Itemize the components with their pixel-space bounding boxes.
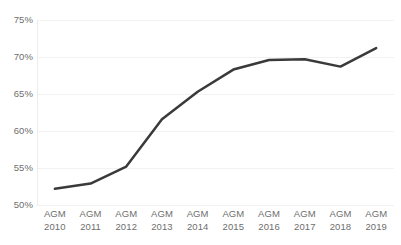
x-tick-label-line1: AGM: [251, 207, 287, 220]
x-tick-label-line1: AGM: [180, 207, 216, 220]
x-tick-label-line1: AGM: [108, 207, 144, 220]
x-tick-label-agm-2010: AGM 2010: [37, 207, 73, 241]
x-tick-label-agm-2016: AGM 2016: [251, 207, 287, 241]
x-tick-label-agm-2017: AGM 2017: [287, 207, 323, 241]
series-line: [55, 48, 376, 189]
x-tick-label-line1: AGM: [287, 207, 323, 220]
x-tick-label-line2: 2018: [323, 220, 359, 233]
x-tick-label-agm-2015: AGM 2015: [216, 207, 252, 241]
x-tick-label-agm-2012: AGM 2012: [108, 207, 144, 241]
x-tick-label-agm-2013: AGM 2013: [144, 207, 180, 241]
x-tick-label-agm-2019: AGM 2019: [358, 207, 394, 241]
x-tick-label-line2: 2012: [108, 220, 144, 233]
x-tick-label-line2: 2014: [180, 220, 216, 233]
x-axis-tick-labels: AGM 2010 AGM 2011 AGM 2012 AGM 2013 AGM …: [37, 207, 394, 241]
x-tick-label-line1: AGM: [73, 207, 109, 220]
x-tick-label-line2: 2017: [287, 220, 323, 233]
x-tick-label-agm-2011: AGM 2011: [73, 207, 109, 241]
x-tick-label-line2: 2016: [251, 220, 287, 233]
x-tick-label-line1: AGM: [37, 207, 73, 220]
x-tick-label-line2: 2013: [144, 220, 180, 233]
x-tick-label-agm-2014: AGM 2014: [180, 207, 216, 241]
line-chart: 75% 70% 65% 60% 55% 50% AGM 2010 AGM 201…: [0, 0, 401, 245]
x-tick-label-line1: AGM: [216, 207, 252, 220]
x-tick-label-line2: 2019: [358, 220, 394, 233]
x-tick-label-line1: AGM: [323, 207, 359, 220]
x-tick-label-line1: AGM: [144, 207, 180, 220]
x-tick-label-line2: 2010: [37, 220, 73, 233]
x-tick-label-agm-2018: AGM 2018: [323, 207, 359, 241]
x-tick-label-line1: AGM: [358, 207, 394, 220]
x-tick-label-line2: 2011: [73, 220, 109, 233]
x-tick-label-line2: 2015: [216, 220, 252, 233]
